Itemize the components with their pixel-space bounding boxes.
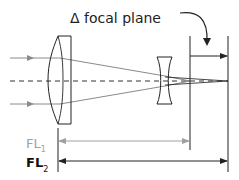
optical-diagram: Δ focal plane FL1 FL2	[0, 0, 239, 180]
ray-fp2	[165, 77, 228, 81]
ray-arrow-icon	[27, 101, 34, 107]
ray-bottom-converge	[60, 86, 165, 104]
delta-focal-plane-label: Δ focal plane	[70, 10, 161, 26]
curved-arrow-icon	[180, 13, 207, 42]
arrowhead-icon	[203, 38, 211, 46]
fl2-label: FL2	[26, 155, 48, 174]
fl1-label: FL1	[26, 136, 46, 154]
positive-lens	[48, 36, 71, 124]
ray-arrow-icon	[27, 55, 34, 61]
ray-top-converge	[60, 58, 165, 76]
ray-fp2	[165, 81, 228, 85]
